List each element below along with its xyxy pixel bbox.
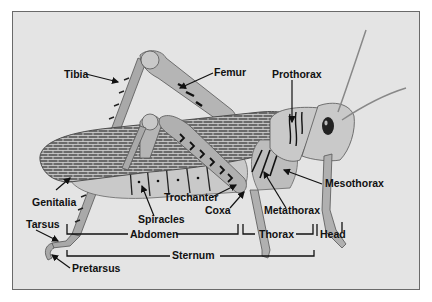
label-coxa: Coxa <box>205 204 231 216</box>
label-prothorax: Prothorax <box>272 68 322 80</box>
label-sternum: Sternum <box>172 249 215 261</box>
label-head: Head <box>320 228 346 240</box>
label-abdomen: Abdomen <box>130 228 178 240</box>
grasshopper-diagram: Tibia Femur Prothorax Mesothorax Metatho… <box>0 0 432 302</box>
label-tibia: Tibia <box>64 68 88 80</box>
label-trochanter: Trochanter <box>164 191 218 203</box>
label-femur: Femur <box>214 66 246 78</box>
label-thorax: Thorax <box>259 228 294 240</box>
label-genitalia: Genitalia <box>32 196 77 208</box>
label-tarsus: Tarsus <box>26 218 60 230</box>
label-pretarsus: Pretarsus <box>72 262 121 274</box>
label-spiracles: Spiracles <box>138 213 185 225</box>
label-mesothorax: Mesothorax <box>325 177 384 189</box>
label-metathorax: Metathorax <box>264 204 320 216</box>
head <box>302 30 406 161</box>
